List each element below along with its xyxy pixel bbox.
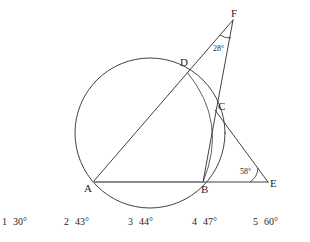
- answer-options-row: 1 30° 2 43° 3 44° 4 47° 5 60°: [0, 216, 310, 238]
- segment-af: [93, 20, 233, 182]
- answer-option-3-number: 3: [128, 216, 133, 227]
- point-label-f: F: [231, 8, 237, 19]
- point-label-e: E: [270, 178, 277, 189]
- geometry-figure: [0, 0, 310, 242]
- point-label-c: C: [218, 101, 225, 112]
- figure-page: A B C D E F 28° 58° 1 30° 2 43° 3 44° 4 …: [0, 0, 310, 242]
- answer-option-4[interactable]: 4 47°: [192, 216, 217, 227]
- answer-option-3[interactable]: 3 44°: [128, 216, 153, 227]
- angle-value-at-f: 28°: [213, 45, 224, 53]
- answer-option-3-value: 44°: [139, 216, 153, 227]
- answer-option-4-number: 4: [192, 216, 197, 227]
- answer-option-2-number: 2: [64, 216, 69, 227]
- answer-option-5-value: 60°: [264, 216, 278, 227]
- answer-option-1-number: 1: [2, 216, 7, 227]
- answer-option-4-value: 47°: [203, 216, 217, 227]
- answer-option-2-value: 43°: [75, 216, 89, 227]
- answer-option-2[interactable]: 2 43°: [64, 216, 89, 227]
- answer-option-1[interactable]: 1 30°: [2, 216, 27, 227]
- angle-value-at-e: 58°: [240, 168, 251, 176]
- answer-option-5-number: 5: [253, 216, 258, 227]
- answer-option-5[interactable]: 5 60°: [253, 216, 278, 227]
- answer-option-1-value: 30°: [13, 216, 27, 227]
- point-label-a: A: [84, 183, 92, 194]
- point-label-d: D: [180, 57, 188, 68]
- secondary-arc: [187, 72, 212, 182]
- point-label-b: B: [201, 184, 208, 195]
